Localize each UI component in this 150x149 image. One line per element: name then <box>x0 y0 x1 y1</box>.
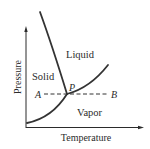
point-B-label: B <box>111 89 117 100</box>
phase-diagram: Liquid Solid Vapor P A B Pressure Temper… <box>0 0 150 149</box>
x-axis-arrow-icon <box>138 126 144 129</box>
y-axis-arrow-icon <box>24 26 27 32</box>
region-label-liquid: Liquid <box>66 49 95 60</box>
region-label-vapor: Vapor <box>77 107 103 118</box>
sublimation-curve <box>27 94 67 123</box>
region-label-solid: Solid <box>32 71 55 82</box>
triple-point-label: P <box>68 82 75 93</box>
point-A-label: A <box>34 89 42 100</box>
y-axis-title: Pressure <box>12 60 23 94</box>
x-axis-title: Temperature <box>61 132 112 143</box>
